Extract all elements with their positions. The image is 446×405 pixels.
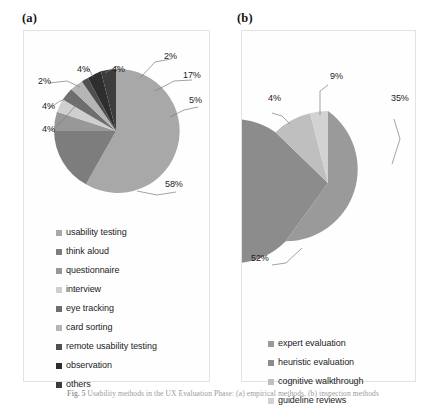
legend-swatch-icon xyxy=(56,268,62,274)
pie-a-pct-questionnaire: 5% xyxy=(189,95,202,105)
legend-swatch-icon xyxy=(56,325,62,331)
pie-a-pct-remote-usability-testing: 2% xyxy=(38,76,51,86)
leader-line-guideline-reviews xyxy=(272,113,290,124)
legend-item-questionnaire[interactable]: questionnaire xyxy=(56,261,209,280)
panel-label-b: (b) xyxy=(237,11,253,26)
leader-line-heuristic-evaluation xyxy=(272,248,302,265)
pie-b-slices xyxy=(242,111,358,263)
chart-panel-a: 2% 17% 5% 58% 4% 4% 2% 4% 4% usability t… xyxy=(23,30,210,382)
pie-b-pct-guideline-reviews: 4% xyxy=(268,93,281,103)
pie-a-pct-eye-tracking: 4% xyxy=(42,101,55,111)
pie-chart-a: 2% 17% 5% 58% 4% 4% 2% 4% 4% xyxy=(24,31,209,221)
legend-item-observation[interactable]: observation xyxy=(56,356,209,375)
pie-a-pct-others: 2% xyxy=(164,51,177,61)
legend-item-expert-evaluation[interactable]: expert evaluation xyxy=(268,334,415,353)
figure-caption-text: Usability methods in the UX Evaluation P… xyxy=(88,389,379,398)
legend-item-remote-usability-testing[interactable]: remote usability testing xyxy=(56,337,209,356)
legend-swatch-icon xyxy=(56,382,62,388)
legend-swatch-icon xyxy=(56,230,62,236)
legend-item-label: remote usability testing xyxy=(66,342,157,351)
legend-item-interview[interactable]: interview xyxy=(56,280,209,299)
pie-b-pct-cognitive-walkthrough: 9% xyxy=(330,71,343,81)
figure-caption: Fig. 5 Usability methods in the UX Evalu… xyxy=(0,389,446,398)
leader-line-others xyxy=(140,59,171,78)
pie-a-pct-think-aloud: 17% xyxy=(183,70,201,80)
pie-chart-b: 9% 35% 52% 4% xyxy=(242,31,415,331)
legend-swatch-icon xyxy=(56,306,62,312)
legend-item-label: think aloud xyxy=(66,247,109,256)
figure-caption-prefix: Fig. 5 xyxy=(67,389,86,398)
leader-line-expert-evaluation xyxy=(392,119,400,164)
legend-item-card-sorting[interactable]: card sorting xyxy=(56,318,209,337)
pie-a-pct-interview: 4% xyxy=(42,124,55,134)
legend-item-label: usability testing xyxy=(66,228,127,237)
legend-item-label: expert evaluation xyxy=(278,339,346,348)
legend-item-label: others xyxy=(66,380,91,389)
legend-a: usability testing think aloud questionna… xyxy=(24,223,209,394)
legend-item-label: eye tracking xyxy=(66,304,114,313)
legend-item-label: questionnaire xyxy=(66,266,119,275)
pie-b-svg xyxy=(242,31,415,331)
pie-a-pct-usability-testing: 58% xyxy=(165,179,183,189)
panel-label-a: (a) xyxy=(22,11,37,26)
chart-panel-b: 9% 35% 52% 4% expert evaluation heuristi… xyxy=(241,30,416,382)
pie-a-pct-observation: 4% xyxy=(112,64,125,74)
legend-swatch-icon xyxy=(56,363,62,369)
figure-container: (a) xyxy=(0,0,446,405)
legend-swatch-icon xyxy=(268,398,274,404)
pie-b-pct-heuristic-evaluation: 52% xyxy=(251,253,269,263)
legend-item-label: cognitive walkthrough xyxy=(278,377,364,386)
legend-item-label: card sorting xyxy=(66,323,112,332)
legend-swatch-icon xyxy=(268,360,274,366)
pie-b-pct-expert-evaluation: 35% xyxy=(391,93,409,103)
legend-swatch-icon xyxy=(56,287,62,293)
legend-swatch-icon xyxy=(56,344,62,350)
legend-item-eye-tracking[interactable]: eye tracking xyxy=(56,299,209,318)
legend-swatch-icon xyxy=(56,249,62,255)
legend-item-label: interview xyxy=(66,285,101,294)
legend-swatch-icon xyxy=(268,341,274,347)
legend-item-heuristic-evaluation[interactable]: heuristic evaluation xyxy=(268,353,415,372)
legend-item-label: heuristic evaluation xyxy=(278,358,354,367)
legend-swatch-icon xyxy=(268,379,274,385)
pie-a-pct-card-sorting: 4% xyxy=(77,64,90,74)
legend-item-label: observation xyxy=(66,361,112,370)
legend-item-usability-testing[interactable]: usability testing xyxy=(56,223,209,242)
legend-item-think-aloud[interactable]: think aloud xyxy=(56,242,209,261)
leader-line-cognitive-walkthrough xyxy=(320,85,328,115)
